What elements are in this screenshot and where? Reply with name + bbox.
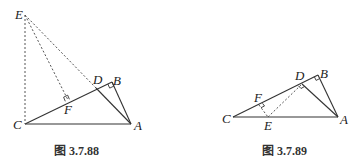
figure-caption: 图 3.7.89: [262, 144, 307, 158]
figure-caption: 图 3.7.88: [54, 144, 99, 158]
point-label-D: D: [92, 72, 103, 87]
segment-CB: [233, 75, 318, 117]
right-angle-marker-F: [64, 95, 70, 101]
segment-DA: [96, 88, 131, 124]
point-label-C: C: [222, 111, 231, 126]
segment-BA: [112, 82, 131, 124]
geometry-figures: E D B F C A 图 3.7.88 D B F C E A 图 3.7.8…: [0, 0, 360, 167]
segment-ED: [268, 84, 302, 117]
point-label-B: B: [113, 73, 121, 88]
point-label-B: B: [320, 66, 328, 81]
point-label-C: C: [13, 117, 22, 132]
figure-3-7-89: D B F C E A 图 3.7.89: [222, 66, 348, 158]
point-label-F: F: [63, 102, 73, 117]
segment-DA: [302, 84, 338, 117]
figure-3-7-88: E D B F C A 图 3.7.88: [13, 7, 142, 158]
segment-ED: [25, 15, 96, 88]
point-label-A: A: [133, 118, 142, 133]
point-label-D: D: [294, 68, 305, 83]
segment-EF: [25, 15, 68, 100]
point-label-E: E: [263, 118, 272, 133]
point-label-A: A: [339, 112, 348, 127]
point-label-E: E: [14, 7, 23, 22]
segment-BA: [318, 75, 338, 117]
point-label-F: F: [253, 90, 263, 105]
